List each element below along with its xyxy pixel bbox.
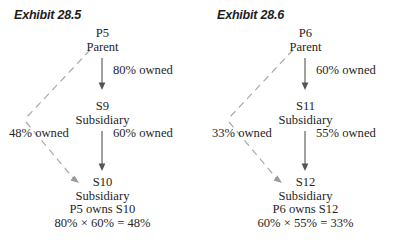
edge-label-middle-to-bottom: 60% owned [113, 126, 173, 140]
edge-label-parent-to-middle: 80% owned [113, 63, 173, 77]
edge-label-parent-to-bottom: 33% owned [212, 126, 272, 140]
node-middle-role: Subsidiary [1, 114, 204, 128]
node-bottom-calculation: 60% × 55% = 33% [204, 217, 406, 231]
node-middle-code: S11 [204, 100, 406, 114]
node-parent-role: Parent [1, 41, 204, 55]
edge-label-middle-to-bottom: 55% owned [316, 126, 376, 140]
node-parent-code: P5 [1, 27, 204, 41]
node-parent: P5 Parent [1, 27, 204, 54]
node-middle-role: Subsidiary [204, 114, 406, 128]
node-bottom-subsidiary: S12 Subsidiary P6 owns S12 60% × 55% = 3… [204, 176, 406, 230]
node-bottom-role: Subsidiary [204, 190, 406, 204]
exhibit-panel-28-5: Exhibit 28.5 P5 Parent S9 Subsidiary S10… [0, 0, 203, 246]
exhibit-diagram-canvas: Exhibit 28.5 P5 Parent S9 Subsidiary S10… [0, 0, 406, 246]
edge-label-parent-to-bottom: 48% owned [9, 126, 69, 140]
node-parent-role: Parent [204, 41, 406, 55]
node-bottom-calculation: 80% × 60% = 48% [1, 217, 204, 231]
node-parent-code: P6 [204, 27, 406, 41]
node-bottom-ownership: P6 owns S12 [204, 203, 406, 217]
node-bottom-code: S12 [204, 176, 406, 190]
node-bottom-code: S10 [1, 176, 204, 190]
node-bottom-role: Subsidiary [1, 190, 204, 204]
exhibit-panel-28-6: Exhibit 28.6 P6 Parent S11 Subsidiary S1… [203, 0, 406, 246]
edge-parent-to-middle-arrowhead [99, 83, 106, 91]
node-middle-subsidiary: S11 Subsidiary [204, 100, 406, 127]
edge-middle-to-bottom-arrowhead [302, 164, 309, 172]
node-bottom-ownership: P5 owns S10 [1, 203, 204, 217]
node-middle-subsidiary: S9 Subsidiary [1, 100, 204, 127]
edge-parent-to-middle-arrowhead [302, 83, 309, 91]
edge-label-parent-to-middle: 60% owned [316, 63, 376, 77]
node-bottom-subsidiary: S10 Subsidiary P5 owns S10 80% × 60% = 4… [1, 176, 204, 230]
edge-middle-to-bottom-arrowhead [99, 164, 106, 172]
node-middle-code: S9 [1, 100, 204, 114]
node-parent: P6 Parent [204, 27, 406, 54]
